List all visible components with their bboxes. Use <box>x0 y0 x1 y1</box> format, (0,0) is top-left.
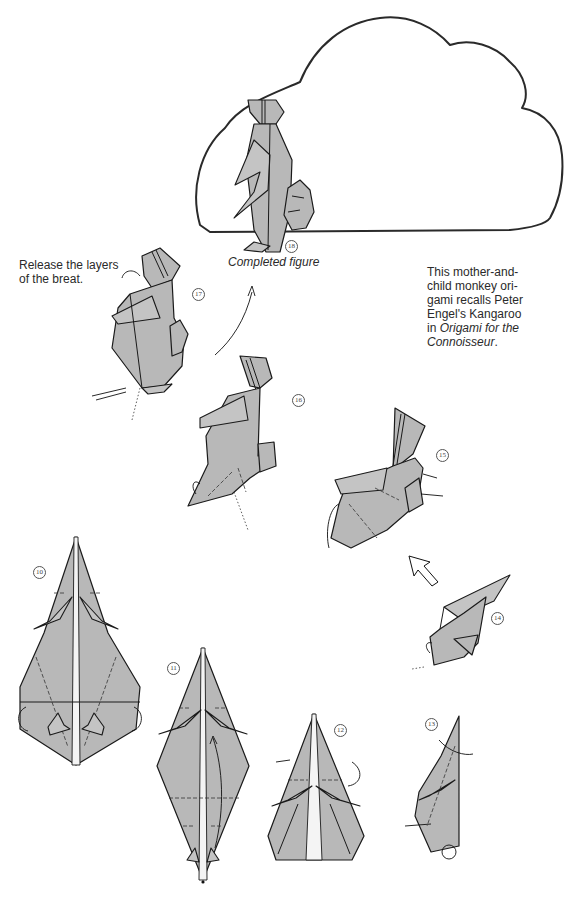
instruction-line: of the breat. <box>19 272 179 286</box>
note-line: gami recalls Peter <box>427 293 567 307</box>
step-13-figure <box>405 716 473 859</box>
step-number-16: 16 <box>292 394 305 407</box>
step-number-10: 10 <box>33 566 46 579</box>
step-number-13: 13 <box>425 718 438 731</box>
step-12-figure <box>268 714 364 860</box>
book-title: Origami for the <box>440 321 519 335</box>
step-16-figure <box>188 356 276 530</box>
step-arrow-17-to-18 <box>215 292 252 355</box>
step-18-figure <box>234 100 314 252</box>
diagram-canvas <box>0 0 569 900</box>
instruction-line: Release the layers <box>19 258 179 272</box>
step-number-15: 15 <box>436 449 449 462</box>
step-number-12: 12 <box>334 724 347 737</box>
note-line: in Origami for the <box>427 321 567 335</box>
step-number-11: 11 <box>167 662 180 675</box>
completed-figure-label: Completed figure <box>228 255 319 269</box>
attribution-note: This mother-and- child monkey ori- gami … <box>427 265 567 349</box>
step-number-14: 14 <box>491 612 504 625</box>
hollow-turn-arrow <box>409 556 438 586</box>
note-prefix: in <box>427 321 440 335</box>
step-11-dot <box>201 880 204 883</box>
note-line: This mother-and- <box>427 265 567 279</box>
step-number-17: 17 <box>192 288 205 301</box>
step-number-18: 18 <box>285 240 298 253</box>
step-11-figure <box>157 648 249 880</box>
book-title: Connoisseur <box>427 335 494 349</box>
note-line: Engel's Kangaroo <box>427 307 567 321</box>
step-15-figure <box>327 408 443 548</box>
note-line: Connoisseur. <box>427 335 567 349</box>
step-17-instruction: Release the layers of the breat. <box>19 258 179 286</box>
note-suffix: . <box>494 335 497 349</box>
note-line: child monkey ori- <box>427 279 567 293</box>
